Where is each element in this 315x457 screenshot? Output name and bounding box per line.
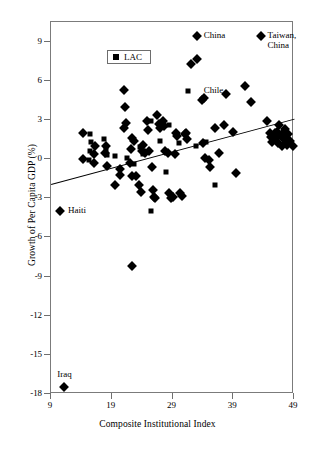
annotation-label: Iraq [57,369,72,379]
x-axis-title: Composite Institutional Index [0,419,315,429]
y-axis-tick-label: -3 [35,193,42,202]
legend: LAC [107,50,151,64]
x-axis-tick-label: 39 [217,401,247,410]
x-axis-tick-label: 49 [278,401,308,410]
data-point-square [213,183,218,188]
x-axis-tick [293,393,294,399]
y-axis-tick-label: -15 [30,350,42,359]
y-axis-tick-label: 6 [38,76,42,85]
x-axis-tick-label: 19 [96,401,126,410]
scatter-plot-figure: Growth of Per Capita GDP (%) Composite I… [0,0,315,457]
data-point-diamond [214,148,224,158]
data-point-diamond [182,135,192,145]
annotation-label: Haiti [68,205,86,215]
data-point-diamond [151,193,161,203]
plot-area: ChinaTaiwan, ChinaChileHaitiIraq LAC [50,21,293,393]
data-point-diamond [219,120,229,130]
data-point-square [88,132,93,137]
legend-square-icon [113,54,119,60]
data-point-square [185,89,190,94]
data-point-diamond [256,31,266,41]
data-point-diamond [110,180,120,190]
y-axis-tick-label: -6 [35,232,42,241]
data-point-diamond [240,81,250,91]
annotation-label: China [204,30,226,40]
y-axis-tick-label: 9 [38,37,42,46]
data-point-square [193,144,198,149]
y-axis-tick-label: 3 [38,115,42,124]
data-point-diamond [205,162,215,172]
x-axis-tick [50,393,51,399]
legend-item-label: LAC [124,53,142,62]
data-point-square [158,138,163,143]
data-point-diamond [119,85,129,95]
data-point-diamond [59,383,69,393]
y-axis-tick-label: 0 [38,154,42,163]
y-axis-title: Growth of Per Capita GDP (%) [27,85,37,325]
data-point-square [148,209,153,214]
data-point-diamond [192,31,202,41]
data-point-diamond [147,162,157,172]
x-axis-tick-label: 29 [157,401,187,410]
x-axis-tick [232,393,233,399]
data-point-diamond [89,158,99,168]
data-point-diamond [127,261,137,271]
annotation-label: Taiwan, China [268,30,297,50]
data-point-square [164,170,169,175]
data-point-diamond [143,125,153,135]
x-axis-tick [111,393,112,399]
y-axis-tick-label: -9 [35,272,42,281]
data-point-diamond [120,102,130,112]
data-point-square [112,154,117,159]
data-point-diamond [231,168,241,178]
y-axis-tick-label: -12 [30,311,42,320]
data-point-diamond [78,128,88,138]
annotation-label: Chile [204,85,224,95]
data-point-diamond [55,206,65,216]
x-axis-tick [172,393,173,399]
x-axis-tick-label: 9 [35,401,65,410]
data-point-diamond [247,97,257,107]
y-axis-tick-label: -18 [30,389,42,398]
data-point-square [176,141,181,146]
